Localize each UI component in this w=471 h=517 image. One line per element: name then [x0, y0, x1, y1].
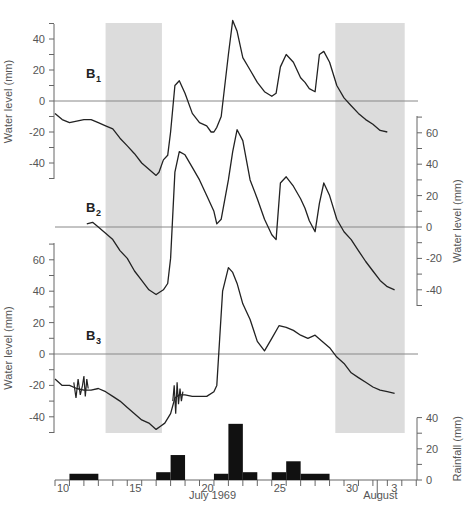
- rainfall-bar: [171, 455, 185, 480]
- panel-label-B2: B: [86, 200, 95, 215]
- y-tick-label: -40: [426, 284, 442, 296]
- rainfall-bar: [156, 472, 170, 480]
- rainfall-bar: [272, 472, 286, 480]
- y-tick-label: -40: [29, 157, 45, 169]
- hydrograph-chart: 40200-20-40Water level (mm)6040200-20-40…: [0, 0, 471, 517]
- x-tick-label: 10: [57, 482, 69, 494]
- rainfall-axis-label: Rainfall (mm): [451, 416, 463, 481]
- y-axis-label-B1: Water level (mm): [2, 60, 14, 143]
- y-tick-label: -20: [426, 252, 442, 264]
- rainfall-bar: [69, 474, 98, 480]
- x-axis-label-august: August: [363, 489, 397, 501]
- y-tick-label: 0: [426, 221, 432, 233]
- panel-label-sub-B1: 1: [96, 74, 101, 84]
- rainfall-bar: [243, 472, 257, 480]
- y-tick-label: -20: [29, 379, 45, 391]
- shaded-period-2: [335, 23, 404, 433]
- y-tick-label: 40: [426, 158, 438, 170]
- y-tick-label: 40: [33, 33, 45, 45]
- panel-labels: B1B2B3: [86, 66, 101, 346]
- y-tick-label: 20: [33, 64, 45, 76]
- y-tick-label: -40: [29, 411, 45, 423]
- rainfall-tick-label: 0: [426, 474, 432, 486]
- rainfall-tick-label: 20: [426, 443, 438, 455]
- y-tick-label: 0: [39, 95, 45, 107]
- panel-label-B1: B: [86, 66, 95, 81]
- x-tick-label: 30: [346, 482, 358, 494]
- y-axis-label-B3: Water level (mm): [2, 306, 14, 389]
- shaded-periods: [106, 23, 405, 433]
- rainfall-bar: [286, 461, 300, 480]
- x-tick-label: 25: [274, 482, 286, 494]
- rainfall-bar: [228, 424, 242, 480]
- panel-label-sub-B3: 3: [96, 336, 101, 346]
- y-tick-label: 0: [39, 348, 45, 360]
- x-axis-label: July 1969: [189, 489, 236, 501]
- x-tick-label: 15: [129, 482, 141, 494]
- y-tick-label: 60: [426, 127, 438, 139]
- y-axis-label-B2: Water level (mm): [451, 179, 463, 262]
- rainfall-tick-label: 40: [426, 412, 438, 424]
- noise-B3-early: [74, 376, 88, 398]
- y-tick-label: 60: [33, 254, 45, 266]
- y-tick-label: 40: [33, 285, 45, 297]
- rainfall-bar: [214, 474, 228, 480]
- shaded-period-1: [106, 23, 162, 433]
- rainfall-bar: [301, 474, 330, 480]
- y-tick-label: 20: [33, 317, 45, 329]
- noise-B3-mid: [173, 382, 183, 413]
- y-tick-label: -20: [29, 126, 45, 138]
- y-tick-label: 20: [426, 190, 438, 202]
- panel-label-B3: B: [86, 328, 95, 343]
- panel-label-sub-B2: 2: [96, 208, 101, 218]
